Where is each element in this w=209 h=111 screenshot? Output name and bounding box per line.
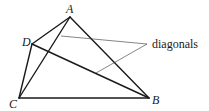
diagonals-annotation: diagonals: [152, 37, 198, 51]
side-da: [32, 17, 70, 44]
vertex-label-d: D: [21, 35, 31, 49]
leader-line-db: [96, 44, 147, 73]
side-cd: [19, 44, 32, 98]
leader-line-ac: [61, 36, 147, 44]
vertex-label-a: A: [65, 2, 74, 16]
side-ab: [70, 17, 149, 98]
quadrilateral-diagram: A B C D diagonals: [0, 0, 209, 111]
vertex-label-c: C: [9, 97, 18, 111]
vertex-label-b: B: [152, 93, 160, 107]
diagonal-db: [32, 44, 149, 98]
